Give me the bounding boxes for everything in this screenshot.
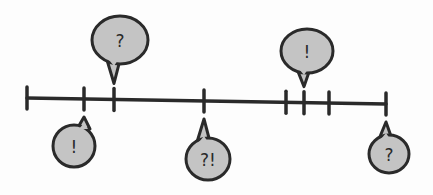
timeline-axis xyxy=(27,98,386,104)
timeline-canvas xyxy=(0,0,433,195)
timeline-diagram: ?!?!!? xyxy=(0,0,433,195)
bubble-label: ! xyxy=(304,44,311,61)
bubble-label: ? xyxy=(384,147,393,164)
bubble-label: ! xyxy=(71,139,78,156)
bubble-label: ?! xyxy=(200,152,216,169)
bubble-label: ? xyxy=(115,33,124,50)
